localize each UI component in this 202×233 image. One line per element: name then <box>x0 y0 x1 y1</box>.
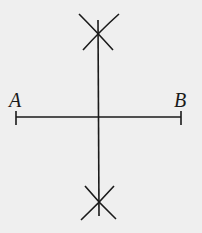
top-arc-from-b <box>83 14 119 50</box>
bisector-line <box>98 20 99 216</box>
top-arc-intersection <box>79 14 119 50</box>
point-label-b: B <box>174 90 186 110</box>
bottom-arc-from-b <box>81 186 114 220</box>
bottom-arc-from-a <box>85 186 116 219</box>
point-label-a: A <box>9 90 21 110</box>
diagram-canvas: A B <box>0 0 202 233</box>
top-arc-from-a <box>79 14 113 50</box>
perpendicular-bisector-diagram <box>0 0 202 233</box>
